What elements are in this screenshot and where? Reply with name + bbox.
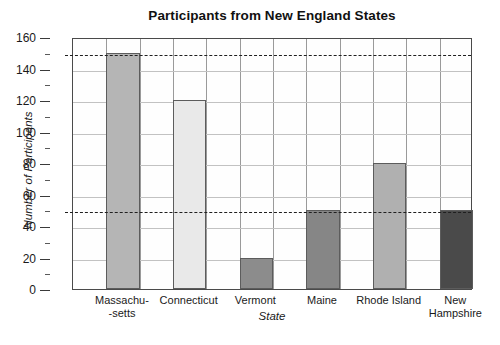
- gridline-vertical: [406, 39, 407, 289]
- y-tick-major: [40, 196, 50, 197]
- y-tick-minor: [45, 54, 50, 55]
- y-tick-major: [40, 70, 50, 71]
- y-tick-major: [40, 133, 50, 134]
- gridline-vertical: [206, 39, 207, 289]
- bar: [306, 210, 339, 289]
- bar: [240, 258, 273, 290]
- y-tick-major: [40, 101, 50, 102]
- y-tick-minor: [45, 148, 50, 149]
- y-tick-minor: [45, 274, 50, 275]
- y-tick-minor: [45, 211, 50, 212]
- y-tick-minor: [45, 85, 50, 86]
- gridline-vertical: [240, 39, 241, 289]
- y-tick-major: [40, 227, 50, 228]
- y-tick-minor: [45, 180, 50, 181]
- bar: [173, 100, 206, 289]
- bar: [373, 163, 406, 289]
- gridline-vertical: [273, 39, 274, 289]
- y-tick-label: 20: [23, 252, 36, 266]
- y-tick-minor: [45, 243, 50, 244]
- y-tick-label: 0: [29, 283, 36, 297]
- gridline-vertical: [140, 39, 141, 289]
- x-tick-label: NewHampshire: [407, 294, 500, 320]
- reference-line: [65, 55, 471, 56]
- y-tick-label: 160: [16, 31, 36, 45]
- chart-title: Participants from New England States: [72, 8, 472, 23]
- bar-chart-figure: Participants from New England States 020…: [0, 0, 500, 345]
- y-tick-major: [40, 259, 50, 260]
- bar: [106, 53, 139, 289]
- plot-area: [72, 38, 472, 290]
- y-tick-major: [40, 38, 50, 39]
- y-tick-minor: [45, 117, 50, 118]
- y-tick-major: [40, 164, 50, 165]
- y-tick-major: [40, 290, 50, 291]
- gridline-vertical: [340, 39, 341, 289]
- y-axis-title: Number of Participants: [22, 90, 34, 250]
- reference-line: [65, 212, 471, 213]
- y-axis: 020406080100120140160: [0, 0, 72, 345]
- y-tick-label: 140: [16, 63, 36, 77]
- bar: [440, 210, 473, 289]
